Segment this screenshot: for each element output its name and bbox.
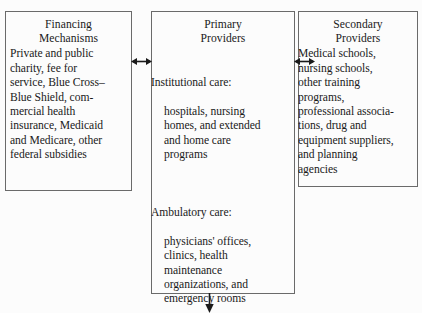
care-group-items: hospitals, nursing homes, and extended a… [151, 105, 294, 163]
box-title-secondary-providers: Secondary Providers [299, 18, 417, 46]
box-primary-providers: Primary Providers Institutional care: ho… [151, 11, 295, 294]
box-body-primary-providers: Institutional care: hospitals, nursing h… [151, 47, 294, 313]
care-group-ambulatory: Ambulatory care: physicians' offices, cl… [151, 191, 294, 313]
diagram-canvas: Financing Mechanisms Private and public … [0, 0, 422, 313]
care-group-items: physicians' offices, clinics, health mai… [151, 235, 294, 307]
care-group-institutional: Institutional care: hospitals, nursing h… [151, 62, 294, 177]
double-arrow-icon-primary-secondary [294, 57, 315, 66]
box-financing-mechanisms: Financing Mechanisms Private and public … [5, 11, 132, 191]
care-group-heading: Ambulatory care: [151, 206, 294, 220]
box-title-primary-providers: Primary Providers [152, 18, 294, 46]
box-body-secondary-providers: Medical schools, nursing schools, other … [298, 47, 417, 177]
box-body-financing-mechanisms: Private and public charity, fee for serv… [10, 47, 131, 162]
double-arrow-icon-financing-primary [131, 57, 152, 66]
care-group-heading: Institutional care: [151, 76, 294, 90]
box-secondary-providers: Secondary Providers Medical schools, nur… [298, 11, 418, 187]
box-title-financing-mechanisms: Financing Mechanisms [6, 18, 131, 46]
down-arrow-icon-primary-outflow [204, 293, 215, 313]
